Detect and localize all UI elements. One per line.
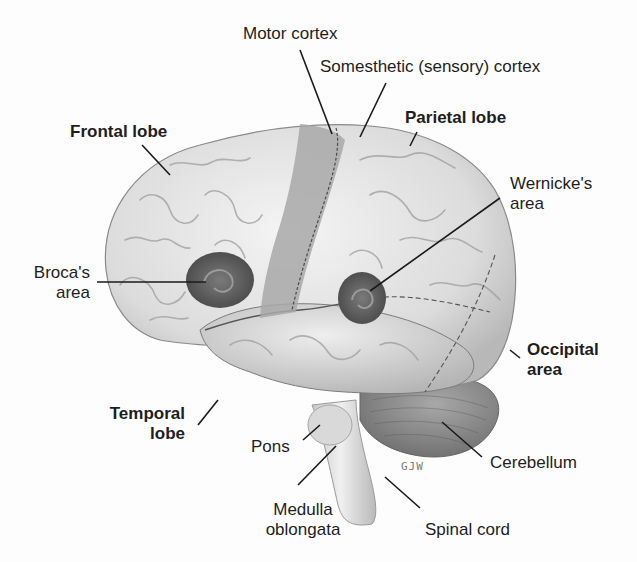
brocas-area-shape [186,252,254,308]
label-wernickes-area: Wernicke's area [510,174,592,214]
artist-signature: GJW [401,460,424,473]
label-somesthetic-cortex: Somesthetic (sensory) cortex [320,57,540,77]
label-parietal-lobe: Parietal lobe [405,108,506,128]
label-brocas-area: Broca's area [18,263,90,303]
label-occipital-area: Occipital area [527,340,599,380]
wernickes-area-shape [338,272,386,324]
label-medulla-oblongata: Medulla oblongata [248,500,358,540]
label-frontal-lobe: Frontal lobe [70,122,167,142]
label-cerebellum: Cerebellum [490,453,577,473]
brain-illustration [0,0,637,562]
label-spinal-cord: Spinal cord [425,520,510,540]
label-temporal-lobe: Temporal lobe [90,404,185,444]
label-pons: Pons [251,437,290,457]
brain-diagram: Motor cortex Somesthetic (sensory) corte… [0,0,637,562]
label-motor-cortex: Motor cortex [243,24,337,44]
